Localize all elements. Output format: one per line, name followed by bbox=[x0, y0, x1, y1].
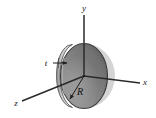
radius-label: R bbox=[76, 86, 83, 97]
y-axis-label: y bbox=[81, 3, 86, 13]
x-axis-label: x bbox=[142, 77, 147, 87]
thickness-label: t bbox=[45, 58, 48, 68]
disk-3d-diagram: y x z t R bbox=[0, 0, 156, 118]
z-axis-label: z bbox=[13, 98, 18, 108]
figure-container: y x z t R bbox=[0, 0, 156, 118]
